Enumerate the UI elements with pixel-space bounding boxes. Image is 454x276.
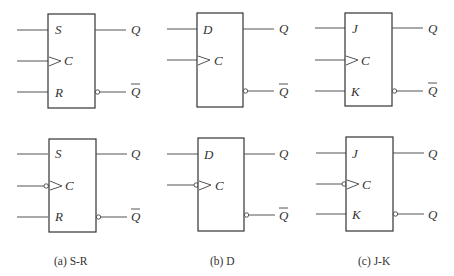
caption-d: (b) D [210,255,235,268]
clock-inversion-bubble-icon [44,184,48,188]
d-label: D [202,22,213,37]
sr-flipflop-bottom: S C R Q Q (a) S-R [17,139,141,268]
c-label: C [362,177,371,192]
inversion-bubble-icon [392,89,396,93]
qbar-label: Q [428,207,438,222]
jk-flipflop-bottom: J C K Q Q (c) J-K [316,137,438,268]
d-label: D [203,147,214,162]
s-label: S [55,22,62,37]
qbar-label: Q [279,84,289,99]
sr-flipflop-top: S C R Q Q [17,14,141,108]
c-label: C [64,53,73,68]
s-label: S [55,146,62,161]
c-label: C [65,178,74,193]
qbar-label: Q [279,208,289,223]
qbar-label: Q [428,83,438,98]
caption-jk: (c) J-K [358,255,391,268]
inversion-bubble-icon [243,89,247,93]
c-label: C [215,178,224,193]
c-label: C [214,53,223,68]
inversion-bubble-icon [95,90,99,94]
d-flipflop-bottom: D C Q Q (b) D [167,138,289,268]
c-label: C [361,53,370,68]
q-label: Q [131,22,141,37]
q-label: Q [279,146,289,161]
inversion-bubble-icon [244,213,248,217]
flip-flop-diagram: S C R Q Q S C R Q Q (a) S-R D C [0,0,454,276]
d-flipflop-top: D C Q Q [167,13,289,107]
inversion-bubble-icon [393,212,397,216]
qbar-label: Q [131,209,141,224]
caption-sr: (a) S-R [54,255,88,268]
q-label: Q [131,146,141,161]
r-label: R [54,85,63,100]
k-label: K [351,207,362,222]
qbar-label: Q [131,84,141,99]
q-label: Q [279,21,289,36]
r-label: R [54,209,63,224]
q-label: Q [428,21,438,36]
inversion-bubble-icon [96,215,100,219]
q-label: Q [428,146,438,161]
jk-flipflop-top: J C K Q Q [315,13,438,106]
k-label: K [350,84,361,99]
